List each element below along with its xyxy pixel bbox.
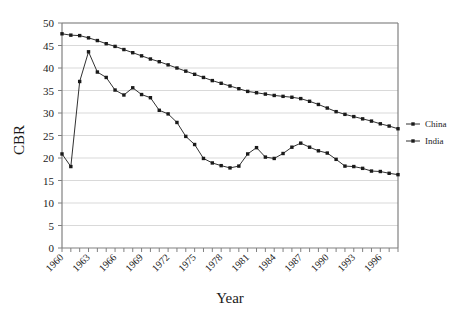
data-point bbox=[343, 113, 346, 116]
cbr-line-chart: 05101520253035404550 1960196319661969197… bbox=[0, 0, 459, 318]
data-point bbox=[246, 90, 249, 93]
data-point bbox=[255, 146, 258, 149]
data-point bbox=[334, 158, 337, 161]
y-tick-label: 10 bbox=[43, 197, 55, 209]
data-point bbox=[166, 63, 169, 66]
data-point bbox=[78, 80, 81, 83]
data-point bbox=[281, 152, 284, 155]
y-axis-tick-labels: 05101520253035404550 bbox=[43, 17, 55, 254]
data-point bbox=[361, 117, 364, 120]
data-point bbox=[175, 66, 178, 69]
data-point bbox=[166, 112, 169, 115]
data-point bbox=[122, 93, 125, 96]
data-point bbox=[140, 93, 143, 96]
legend-label: India bbox=[425, 136, 444, 146]
data-point bbox=[264, 92, 267, 95]
data-point bbox=[219, 82, 222, 85]
data-point bbox=[308, 100, 311, 103]
data-point bbox=[69, 165, 72, 168]
legend-marker bbox=[411, 122, 414, 125]
data-point bbox=[113, 45, 116, 48]
data-point bbox=[237, 164, 240, 167]
x-tick-label: 1978 bbox=[203, 252, 225, 274]
x-tick-label: 1960 bbox=[43, 252, 65, 274]
data-point bbox=[299, 141, 302, 144]
data-point bbox=[334, 110, 337, 113]
x-tick-label: 1963 bbox=[70, 252, 92, 274]
data-point bbox=[202, 76, 205, 79]
data-point bbox=[60, 32, 63, 35]
data-point bbox=[184, 69, 187, 72]
x-tick-label: 1972 bbox=[150, 252, 172, 274]
series-india bbox=[60, 32, 399, 130]
data-point bbox=[131, 86, 134, 89]
x-tick-label: 1975 bbox=[176, 252, 198, 274]
data-point bbox=[140, 54, 143, 57]
x-tick-label: 1993 bbox=[335, 252, 357, 274]
data-point bbox=[87, 50, 90, 53]
y-axis-title: CBR bbox=[11, 125, 27, 155]
data-point bbox=[281, 95, 284, 98]
data-point bbox=[308, 146, 311, 149]
y-tick-label: 25 bbox=[43, 130, 55, 142]
data-point bbox=[60, 152, 63, 155]
x-tick-label: 1987 bbox=[282, 252, 304, 274]
data-point bbox=[387, 172, 390, 175]
data-point bbox=[193, 73, 196, 76]
x-tick-label: 1981 bbox=[229, 252, 251, 274]
data-point bbox=[122, 48, 125, 51]
data-point bbox=[158, 109, 161, 112]
data-series-layer bbox=[60, 32, 399, 176]
legend-marker bbox=[411, 139, 414, 142]
x-tick-label: 1990 bbox=[309, 252, 331, 274]
x-tick-label: 1996 bbox=[362, 252, 384, 274]
data-point bbox=[184, 135, 187, 138]
data-point bbox=[219, 164, 222, 167]
data-point bbox=[255, 91, 258, 94]
data-point bbox=[211, 161, 214, 164]
legend-item-india[interactable]: India bbox=[406, 136, 444, 146]
data-point bbox=[370, 169, 373, 172]
y-tick-label: 30 bbox=[43, 107, 55, 119]
data-point bbox=[96, 39, 99, 42]
y-tick-label: 5 bbox=[49, 220, 55, 232]
data-point bbox=[78, 34, 81, 37]
legend-label: China bbox=[425, 119, 447, 129]
data-point bbox=[149, 57, 152, 60]
data-point bbox=[317, 103, 320, 106]
data-point bbox=[317, 149, 320, 152]
data-point bbox=[290, 96, 293, 99]
legend-item-china[interactable]: China bbox=[406, 119, 447, 129]
y-tick-label: 40 bbox=[43, 62, 55, 74]
x-tick-label: 1984 bbox=[256, 252, 278, 274]
data-point bbox=[387, 124, 390, 127]
data-point bbox=[158, 60, 161, 63]
y-tick-label: 50 bbox=[43, 17, 55, 29]
data-point bbox=[193, 143, 196, 146]
data-point bbox=[352, 115, 355, 118]
data-point bbox=[228, 84, 231, 87]
data-point bbox=[370, 119, 373, 122]
data-point bbox=[352, 165, 355, 168]
data-point bbox=[131, 51, 134, 54]
data-point bbox=[175, 121, 178, 124]
x-tick-label: 1969 bbox=[123, 252, 145, 274]
y-tick-label: 15 bbox=[43, 175, 55, 187]
x-axis-title: Year bbox=[216, 290, 244, 306]
data-point bbox=[326, 106, 329, 109]
y-tick-label: 20 bbox=[43, 152, 55, 164]
data-point bbox=[96, 70, 99, 73]
data-point bbox=[299, 97, 302, 100]
data-point bbox=[211, 79, 214, 82]
data-point bbox=[326, 151, 329, 154]
data-point bbox=[237, 87, 240, 90]
data-point bbox=[113, 88, 116, 91]
x-axis-ticks bbox=[62, 248, 398, 252]
data-point bbox=[69, 33, 72, 36]
data-point bbox=[379, 122, 382, 125]
data-point bbox=[361, 167, 364, 170]
y-tick-label: 35 bbox=[43, 85, 55, 97]
data-point bbox=[343, 164, 346, 167]
chart-legend: ChinaIndia bbox=[406, 119, 447, 146]
data-point bbox=[264, 155, 267, 158]
